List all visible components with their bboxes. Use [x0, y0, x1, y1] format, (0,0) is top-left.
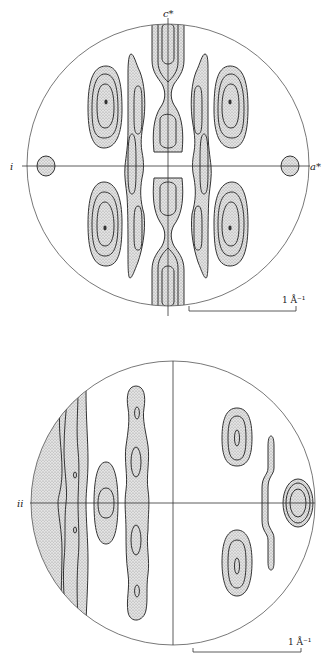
blob-upper-right [214, 66, 248, 148]
blob-upper-left [88, 66, 122, 148]
scale-bar-label-i: 1 Å⁻¹ [282, 294, 305, 305]
panel-label-i: i [10, 161, 13, 172]
blob-lower-left [88, 182, 122, 266]
blob-ii-lower-right [222, 530, 252, 596]
diffraction-figure: i a* c* 1 Å⁻¹ [0, 0, 329, 662]
axis-label-a-star: a* [310, 161, 321, 172]
scale-bar-label-ii: 1 Å⁻¹ [288, 636, 311, 647]
scale-bar-i [189, 306, 296, 311]
panel-ii: ii 1 Å⁻¹ [17, 361, 315, 652]
panel-i: i a* c* 1 Å⁻¹ [10, 8, 321, 316]
blob-lower-right [214, 182, 248, 266]
blob-ii-upper-right [222, 408, 252, 466]
panel-label-ii: ii [17, 498, 23, 509]
axis-label-c-star: c* [163, 8, 174, 19]
scale-bar-ii [193, 648, 301, 652]
